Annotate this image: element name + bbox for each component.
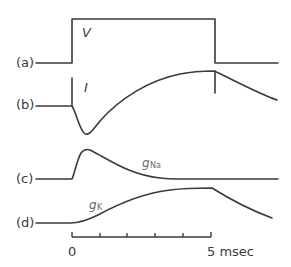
panel-label-a: (a) — [16, 55, 34, 70]
gk-subscript: K — [97, 203, 103, 212]
time-axis-start-label: 0 — [68, 244, 76, 259]
panel-b: (b) I — [16, 71, 277, 134]
voltage-clamp-diagram: (a) V (b) I (c) g Na (d) g K 0 5 msec — [0, 0, 291, 267]
gk-symbol: g — [89, 198, 97, 212]
time-axis-end-label: 5 msec — [207, 244, 254, 259]
time-axis-ticks — [72, 232, 211, 237]
voltage-symbol: V — [82, 25, 92, 40]
panel-label-c: (c) — [16, 171, 33, 186]
time-axis: 0 5 msec — [68, 232, 254, 259]
gna-symbol: g — [142, 156, 150, 170]
panel-c: (c) g Na — [16, 149, 278, 186]
voltage-step-trace — [36, 19, 278, 63]
panel-label-d: (d) — [16, 215, 34, 230]
panel-d: (d) g K — [16, 188, 272, 230]
panel-a: (a) V — [16, 19, 278, 70]
panel-label-b: (b) — [16, 97, 34, 112]
current-symbol: I — [84, 80, 88, 95]
gna-subscript: Na — [150, 161, 161, 170]
potassium-conductance-trace — [36, 188, 272, 223]
